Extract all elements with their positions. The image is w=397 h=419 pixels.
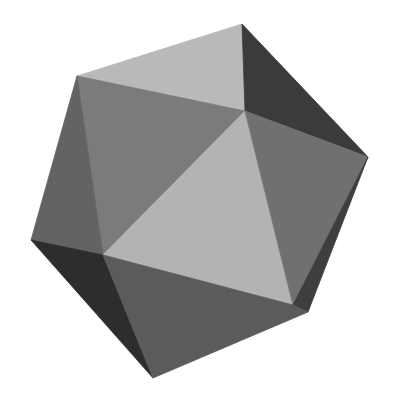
icosahedron-figure <box>0 0 397 419</box>
icosahedron-svg <box>0 0 397 419</box>
